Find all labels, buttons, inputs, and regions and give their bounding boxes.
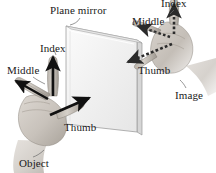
figure-illustration <box>0 0 216 173</box>
label-image: Image <box>175 90 203 101</box>
label-object-thumb: Thumb <box>64 122 96 133</box>
label-image-index: Index <box>161 0 187 9</box>
label-object: Object <box>19 158 49 169</box>
label-object-middle: Middle <box>7 65 39 76</box>
plane-mirror-figure: Plane mirror Index Middle Thumb Object I… <box>0 0 216 173</box>
label-image-middle: Middle <box>132 16 164 27</box>
label-plane-mirror: Plane mirror <box>50 5 107 16</box>
label-image-thumb: Thumb <box>138 65 170 76</box>
label-object-index: Index <box>40 43 66 54</box>
plane-mirror-icon <box>66 26 142 135</box>
